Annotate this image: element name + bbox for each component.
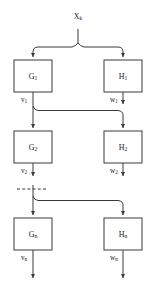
block-G2-sub: 2 [34,146,37,152]
signal-v2-label: v2 [21,167,28,175]
signal-wn-label: wn [110,254,118,262]
signal-vn-sub: n [25,256,28,262]
block-diagram-svg: G1 H1 G2 H2 [0,0,153,288]
signal-w1-label: w1 [110,96,118,104]
block-G2-group[interactable]: G2 [14,131,52,163]
input-label-sub: k [80,15,83,21]
block-H1-sub: 1 [124,75,127,81]
diagram-canvas: G1 H1 G2 H2 [0,0,153,288]
signal-wn-sub: n [115,256,118,262]
block-G1-sub: 1 [34,75,37,81]
block-H1-group[interactable]: H1 [104,60,142,92]
input-label: Xk [74,12,83,21]
vn-in-branch-to-Hn-wire [33,196,123,215]
block-Hn-group[interactable]: Hn [104,218,142,250]
signal-w2-sub: 2 [115,169,118,175]
signal-w2-label: w2 [110,167,118,175]
fork-right-wire [78,43,123,57]
signal-v1-label: v1 [21,96,28,104]
signal-v2-sub: 2 [25,169,28,175]
fork-left-wire [33,43,78,57]
block-Gn-group[interactable]: Gn [14,218,52,250]
input-fork-group [33,29,123,57]
signal-vn-label: vn [21,254,28,262]
stage2-interconnect-group [17,163,123,215]
signal-v1-sub: 1 [25,98,28,104]
block-Hn-sub: n [124,233,127,239]
block-H2-group[interactable]: H2 [104,131,142,163]
signal-w1-sub: 1 [115,98,118,104]
block-H2-sub: 2 [124,146,127,152]
block-G1-group[interactable]: G1 [14,60,52,92]
v1-branch-to-H2-wire [33,106,123,128]
block-Gn-sub: n [34,233,37,239]
